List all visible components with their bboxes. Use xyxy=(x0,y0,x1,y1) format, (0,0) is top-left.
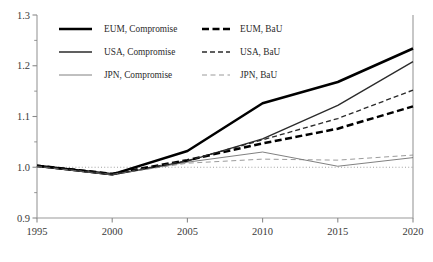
x-tick-label: 1995 xyxy=(27,226,48,237)
x-tick-label: 2020 xyxy=(403,226,424,237)
chart-legend: EUM, CompromiseUSA, CompromiseJPN, Compr… xyxy=(59,24,283,80)
line-chart: 0.91.01.11.21.3 199520002005201020152020… xyxy=(0,0,433,262)
y-tick-label: 1.3 xyxy=(17,10,30,21)
y-axis-tick-labels: 0.91.01.11.21.3 xyxy=(17,10,30,224)
series-line xyxy=(37,62,413,175)
legend-label: EUM, Compromise xyxy=(104,24,177,34)
series-line xyxy=(37,90,413,174)
legend-label: USA, Compromise xyxy=(104,47,175,57)
x-tick-label: 2005 xyxy=(177,226,198,237)
x-tick-label: 2000 xyxy=(102,226,123,237)
chart-container: 0.91.01.11.21.3 199520002005201020152020… xyxy=(0,0,433,262)
y-tick-label: 1.1 xyxy=(17,111,30,122)
y-tick-label: 1.2 xyxy=(17,60,30,71)
x-axis-tick-labels: 199520002005201020152020 xyxy=(27,226,424,237)
legend-label: USA, BaU xyxy=(240,47,281,57)
x-tick-label: 2015 xyxy=(327,226,348,237)
y-tick-label: 1.0 xyxy=(17,162,30,173)
legend-label: EUM, BaU xyxy=(240,24,283,34)
data-series-group xyxy=(37,49,413,175)
plot-frame xyxy=(33,15,414,223)
y-tick-label: 0.9 xyxy=(17,213,30,224)
legend-label: JPN, BaU xyxy=(240,70,277,80)
x-tick-label: 2010 xyxy=(252,226,273,237)
legend-label: JPN, Compromise xyxy=(104,70,172,80)
